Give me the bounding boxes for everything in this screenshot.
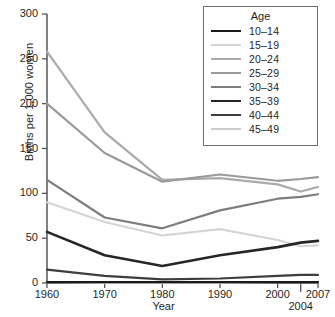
- legend-swatch: [211, 114, 241, 116]
- y-tick-label: 200: [0, 97, 38, 109]
- legend-swatch: [211, 72, 241, 74]
- y-tick-label: 250: [0, 52, 38, 64]
- legend-swatch: [211, 86, 241, 88]
- legend-item: 20–24: [204, 52, 317, 66]
- series-line: [47, 232, 318, 266]
- legend-label: 30–34: [249, 81, 279, 93]
- legend-title: Age: [204, 10, 317, 22]
- y-tick-label: 0: [0, 276, 38, 288]
- legend-item: 25–29: [204, 66, 317, 80]
- legend-item: 35–39: [204, 94, 317, 108]
- legend-swatch: [211, 58, 241, 60]
- legend-item: 15–19: [204, 38, 317, 52]
- x-tick-label: 1970: [82, 288, 128, 300]
- y-tick-label: 50: [0, 231, 38, 243]
- x-tick-label: 1980: [139, 288, 185, 300]
- legend-item: 45–49: [204, 122, 317, 136]
- legend-item: 40–44: [204, 108, 317, 122]
- x-tick-label: 2004: [278, 300, 324, 312]
- series-line: [47, 270, 318, 280]
- legend-label: 20–24: [249, 53, 279, 65]
- legend-swatch: [211, 100, 241, 103]
- x-tick-label: 2007: [295, 288, 335, 300]
- series-line: [47, 180, 318, 228]
- legend-swatch: [211, 30, 241, 32]
- legend-label: 15–19: [249, 39, 279, 51]
- y-tick-marks: [42, 14, 47, 283]
- legend-label: 35–39: [249, 95, 279, 107]
- legend-swatch: [211, 44, 241, 46]
- x-tick-label: 2000: [255, 288, 301, 300]
- legend-label: 40–44: [249, 109, 279, 121]
- x-tick-label: 1990: [197, 288, 243, 300]
- legend-swatch: [211, 128, 241, 130]
- x-tick-label: 1960: [24, 288, 70, 300]
- legend-items: 10–1415–1920–2425–2930–3435–3940–4445–49: [204, 24, 317, 136]
- legend-label: 10–14: [249, 25, 279, 37]
- legend-item: 10–14: [204, 24, 317, 38]
- y-tick-label: 100: [0, 186, 38, 198]
- y-tick-label: 150: [0, 142, 38, 154]
- y-tick-label: 300: [0, 7, 38, 19]
- legend: Age 10–1415–1920–2425–2930–3435–3940–444…: [203, 6, 318, 146]
- legend-label: 25–29: [249, 67, 279, 79]
- series-line: [47, 202, 318, 246]
- legend-label: 45–49: [249, 123, 279, 135]
- legend-item: 30–34: [204, 80, 317, 94]
